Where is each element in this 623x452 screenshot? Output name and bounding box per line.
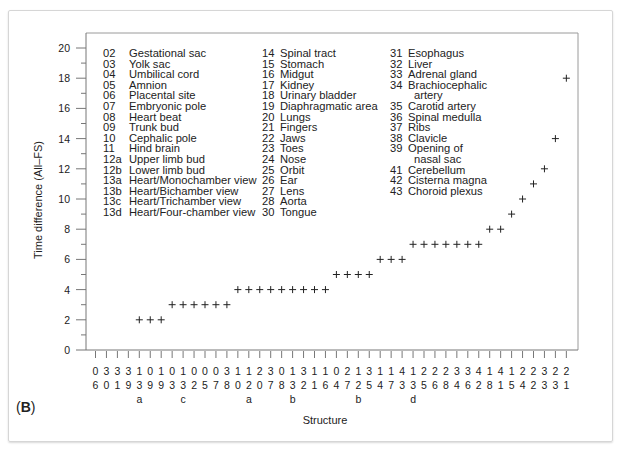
x-tick-label-char: 3	[104, 365, 110, 377]
x-tick-label-char: 9	[147, 379, 153, 391]
legend-code: 13d	[103, 206, 122, 218]
x-tick-label-char: 2	[476, 379, 482, 391]
x-tick-label-char: 2	[531, 379, 537, 391]
x-tick-label: 30	[104, 365, 110, 391]
x-tick-label-char: 2	[432, 365, 438, 377]
x-tick-label: 17	[388, 365, 394, 391]
x-tick-label-char: 3	[542, 365, 548, 377]
x-tick-label-char: 0	[235, 379, 241, 391]
x-tick-label-char: 2	[257, 365, 263, 377]
x-tick-label-char: 0	[104, 379, 110, 391]
x-tick-label-char: 1	[487, 365, 493, 377]
x-tick-label-char: 3	[114, 365, 120, 377]
x-tick-label-char: 1	[136, 365, 142, 377]
x-tick-label-char: 2	[421, 365, 427, 377]
data-point	[442, 241, 449, 248]
x-tick-label-char: 1	[355, 365, 361, 377]
x-tick-label: 13d	[410, 365, 416, 405]
x-tick-label-char: 3	[224, 365, 230, 377]
x-tick-label: 04	[333, 365, 339, 391]
data-point	[421, 241, 428, 248]
data-point	[267, 286, 274, 293]
data-point	[234, 286, 241, 293]
x-tick-label-char: 7	[213, 379, 219, 391]
x-tick-label-char: 0	[333, 365, 339, 377]
x-tick-label-char: 0	[279, 365, 285, 377]
x-tick-label-char: 1	[312, 379, 318, 391]
data-point	[486, 226, 493, 233]
x-tick-label-char: 3	[410, 379, 416, 391]
x-tick-label-char: 0	[202, 365, 208, 377]
x-tick-label: 25	[421, 365, 427, 391]
x-tick-label: 31	[114, 365, 120, 391]
x-tick-label-char: 5	[202, 379, 208, 391]
legend-item: 43Choroid plexus	[390, 185, 483, 197]
x-tick-label-char: 8	[487, 379, 493, 391]
y-tick-label: 10	[58, 193, 70, 205]
x-tick-label-char: 2	[344, 365, 350, 377]
data-point	[169, 301, 176, 308]
data-point	[158, 316, 165, 323]
x-tick-label: 33	[542, 365, 548, 391]
x-tick-label-char: 5	[366, 379, 372, 391]
x-tick-label-char: 2	[552, 365, 558, 377]
x-tick-label-char: 3	[465, 365, 471, 377]
x-tick-label: 15	[509, 365, 515, 391]
data-point	[508, 211, 515, 218]
x-tick-label: 07	[213, 365, 219, 391]
x-tick-label-char: 2	[531, 365, 537, 377]
x-tick-label: 20	[257, 365, 263, 391]
x-tick-label-char: 4	[454, 379, 460, 391]
data-point	[344, 271, 351, 278]
x-tick-label: 11	[312, 365, 318, 391]
x-tick-label-char: 2	[301, 379, 307, 391]
x-tick-label-char: 5	[421, 379, 427, 391]
x-tick-label: 13a	[136, 365, 142, 405]
x-tick-label-char: 1	[498, 379, 504, 391]
data-point	[464, 241, 471, 248]
data-point	[191, 301, 198, 308]
legend-code: 34	[390, 79, 402, 91]
y-tick-label: 16	[58, 102, 70, 114]
x-tick-label-char: 8	[443, 379, 449, 391]
x-tick-label-char: 2	[355, 379, 361, 391]
data-point	[202, 301, 209, 308]
data-point	[541, 165, 548, 172]
data-point	[147, 316, 154, 323]
data-point	[410, 241, 417, 248]
x-tick-label: 09	[147, 365, 153, 391]
panel-label: (B)	[16, 399, 35, 415]
legend-item: 30Tongue	[262, 206, 317, 218]
x-tick-label-char: 3	[454, 365, 460, 377]
x-tick-label: 22	[531, 365, 537, 391]
x-tick-label-char: 9	[158, 379, 164, 391]
y-tick-label: 4	[64, 284, 70, 296]
x-tick-label-char: 1	[377, 365, 383, 377]
x-tick-label-char: 0	[257, 379, 263, 391]
x-tick-label-char: 7	[268, 379, 274, 391]
data-point	[256, 286, 263, 293]
x-tick-label-char: 4	[498, 365, 504, 377]
data-point	[475, 241, 482, 248]
x-tick-label-char: 3	[268, 365, 274, 377]
x-tick-label: 38	[224, 365, 230, 391]
data-point	[519, 196, 526, 203]
x-tick-label-char: 4	[520, 379, 526, 391]
x-tick-label-char: 0	[169, 365, 175, 377]
x-tick-label: 21	[563, 365, 569, 391]
x-tick-label-char: 2	[563, 365, 569, 377]
x-tick-label-char: 1	[114, 379, 120, 391]
scatter-chart: 02468101214161820 0630313913a09190313c02…	[0, 0, 623, 452]
y-tick-label: 2	[64, 314, 70, 326]
x-tick-label-char: 8	[279, 379, 285, 391]
x-tick-label: 08	[279, 365, 285, 391]
x-tick-label-char: 6	[432, 379, 438, 391]
data-point	[377, 256, 384, 263]
x-tick-label-char: 1	[180, 365, 186, 377]
y-tick-label: 20	[58, 42, 70, 54]
x-tick-label-char: 6	[465, 379, 471, 391]
legend-name: Heart/Four-chamber view	[129, 206, 256, 218]
x-tick-label: 41	[498, 365, 504, 391]
y-tick-label: 0	[64, 344, 70, 356]
x-tick-label: 18	[487, 365, 493, 391]
